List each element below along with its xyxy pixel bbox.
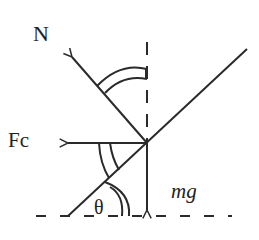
theta-arc-outer bbox=[105, 182, 129, 216]
theta-label: θ bbox=[94, 197, 104, 217]
weight-label: mg bbox=[171, 181, 197, 202]
normal-force-arrow bbox=[72, 57, 147, 143]
normal-force-label: N bbox=[33, 23, 49, 45]
angle-arc-fc-incline-outer bbox=[99, 143, 109, 178]
angle-arc-n-vertical-inner bbox=[105, 78, 147, 93]
angle-arc-fc-incline-inner bbox=[110, 143, 119, 170]
incline-line bbox=[68, 49, 247, 216]
angle-arc-n-vertical-outer bbox=[97, 67, 147, 86]
centripetal-force-label: Fc bbox=[8, 130, 29, 151]
